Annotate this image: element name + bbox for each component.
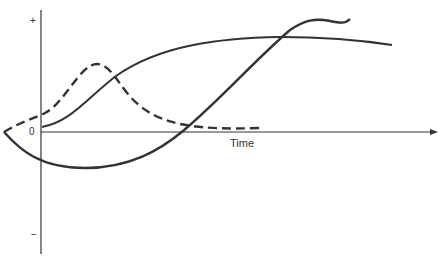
x-axis-arrow-icon (430, 129, 438, 135)
y-plus-label: + (30, 15, 36, 26)
solid-saturating-curve (42, 37, 392, 127)
x-axis-label: Time (230, 137, 254, 149)
origin-label: 0 (29, 126, 35, 137)
y-minus-label: − (31, 229, 37, 240)
solid-dip-curve (4, 19, 350, 168)
diagram-canvas (0, 0, 440, 259)
dashed-curve (4, 64, 260, 132)
